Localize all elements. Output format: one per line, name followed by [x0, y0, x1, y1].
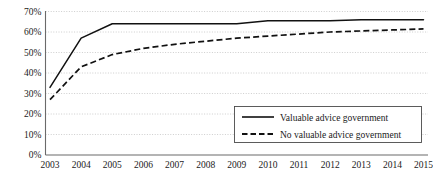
- x-axis-tick-label: 2004: [72, 160, 91, 170]
- x-axis-tick-label: 2014: [383, 160, 402, 170]
- chart-legend: Valuable advice governmentNo valuable ad…: [235, 107, 422, 143]
- legend-label-2: No valuable advice government: [280, 130, 401, 140]
- x-axis-tick-label: 2015: [414, 160, 433, 170]
- y-axis-tick-label: 40%: [24, 68, 42, 78]
- x-axis-tick-label: 2007: [165, 160, 184, 170]
- y-axis-tick-label: 0%: [29, 150, 42, 160]
- x-axis-tick-label: 2009: [227, 160, 246, 170]
- x-axis-tick-label: 2003: [41, 160, 60, 170]
- y-axis-tick-labels: 0%10%20%30%40%50%60%70%: [24, 7, 42, 161]
- line-chart: 0%10%20%30%40%50%60%70% 2003200420052006…: [0, 0, 433, 178]
- x-axis-tick-labels: 2003200420052006200720082009201020112012…: [41, 160, 433, 170]
- y-axis-tick-label: 70%: [24, 7, 42, 17]
- x-axis-tick-label: 2013: [352, 160, 371, 170]
- x-axis-tick-label: 2006: [134, 160, 153, 170]
- x-axis-tick-label: 2012: [321, 160, 340, 170]
- x-axis-tick-label: 2011: [290, 160, 309, 170]
- chart-canvas: 0%10%20%30%40%50%60%70% 2003200420052006…: [0, 0, 433, 178]
- y-axis-tick-label: 50%: [24, 48, 42, 58]
- y-axis-tick-label: 10%: [24, 130, 42, 140]
- series-line-1: [50, 20, 424, 88]
- x-axis-tick-label: 2008: [196, 160, 215, 170]
- legend-label-1: Valuable advice government: [280, 113, 389, 123]
- x-axis-tick-label: 2010: [258, 160, 277, 170]
- series-line-2: [50, 29, 424, 100]
- y-axis-tick-label: 20%: [24, 109, 42, 119]
- y-axis-tick-label: 30%: [24, 89, 42, 99]
- y-axis-tick-label: 60%: [24, 27, 42, 37]
- x-axis-tick-label: 2005: [103, 160, 122, 170]
